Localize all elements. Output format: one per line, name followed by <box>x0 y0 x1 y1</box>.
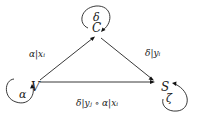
edge-c-to-s-label: δ|yᵢ <box>145 48 161 59</box>
edge-v-to-c-label: α|xᵢ <box>29 49 45 60</box>
edge-c-to-s <box>101 38 152 79</box>
node-v-label: V <box>31 80 41 94</box>
self-loop-s-label: ζ <box>166 92 173 105</box>
arrowhead-loop-s <box>172 82 177 87</box>
edge-v-to-c <box>40 38 93 80</box>
self-loop-v-label: α <box>19 88 27 101</box>
edge-v-to-s-label: δ|yⱼ ∘ α|xᵢ <box>76 98 118 109</box>
self-loop-c-label: δ <box>93 11 100 24</box>
state-diagram: C V S δ α ζ α|xᵢ δ|yᵢ δ|yⱼ ∘ α|xᵢ <box>0 0 200 120</box>
arrowhead-v-to-s <box>150 80 155 84</box>
